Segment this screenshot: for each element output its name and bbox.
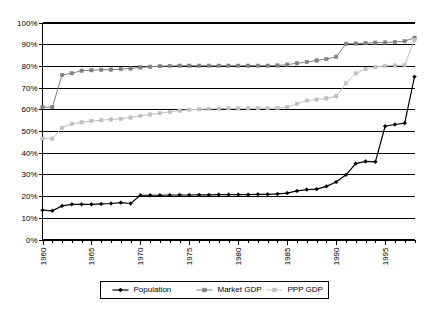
data-point: [373, 160, 377, 164]
data-point: [60, 73, 63, 76]
data-point: [256, 192, 260, 196]
data-point: [354, 42, 357, 45]
y-axis-tick-label: 50%: [21, 127, 37, 136]
data-point: [139, 66, 142, 69]
legend-marker-icon: [273, 288, 277, 292]
data-point: [90, 202, 94, 206]
data-point: [276, 64, 279, 67]
y-axis-tick-label: 30%: [21, 170, 37, 179]
data-point: [246, 107, 249, 110]
y-axis-tick-label: 70%: [21, 84, 37, 93]
data-point: [70, 122, 73, 125]
data-point: [383, 124, 387, 128]
data-point: [286, 105, 289, 108]
x-axis-tick-label: 1995: [381, 247, 390, 265]
data-point: [305, 99, 308, 102]
y-axis-tick-label: 0%: [26, 236, 38, 245]
data-point: [158, 64, 161, 67]
data-series: [41, 36, 417, 213]
data-point: [41, 208, 45, 212]
data-point: [70, 202, 74, 206]
data-point: [403, 121, 407, 125]
data-point: [315, 187, 319, 191]
data-point: [129, 67, 132, 70]
data-point: [266, 64, 269, 67]
data-point: [383, 41, 386, 44]
data-point: [295, 102, 298, 105]
x-axis-tick-label: 1985: [283, 247, 292, 265]
gridlines: [43, 24, 415, 241]
y-axis-tick-label: 60%: [21, 105, 37, 114]
data-point: [276, 192, 280, 196]
data-point: [100, 118, 103, 121]
x-axis-tick-label: 1980: [234, 247, 243, 265]
data-point: [325, 97, 328, 100]
y-axis-tick-labels: 0%10%20%30%40%50%60%70%80%90%100%: [17, 19, 37, 245]
data-point: [295, 189, 299, 193]
data-point: [119, 67, 122, 70]
data-point: [207, 107, 210, 110]
data-point: [109, 118, 112, 121]
data-point: [80, 121, 83, 124]
data-point: [60, 126, 63, 129]
data-point: [70, 72, 73, 75]
data-point: [295, 62, 298, 65]
data-point: [334, 55, 337, 58]
chart-container: 0%10%20%30%40%50%60%70%80%90%100% 196019…: [0, 0, 427, 311]
data-point: [374, 65, 377, 68]
data-point: [237, 107, 240, 110]
series-market-gdp: [41, 36, 416, 109]
x-axis-tick-labels: 19601965197019751980198519901995: [39, 247, 391, 265]
data-point: [393, 40, 396, 43]
series-ppp-gdp: [41, 38, 416, 140]
data-point: [41, 105, 44, 108]
data-point: [354, 72, 357, 75]
data-point: [41, 137, 44, 140]
data-point: [178, 109, 181, 112]
data-point: [383, 64, 386, 67]
y-axis-tick-label: 20%: [21, 192, 37, 201]
data-point: [80, 69, 83, 72]
data-point: [413, 75, 417, 79]
data-point: [325, 57, 328, 60]
data-point: [51, 105, 54, 108]
data-point: [217, 193, 221, 197]
data-point: [246, 64, 249, 67]
data-point: [217, 107, 220, 110]
y-axis-tick-label: 90%: [21, 40, 37, 49]
data-point: [178, 64, 181, 67]
data-point: [413, 38, 416, 41]
data-point: [188, 108, 191, 111]
data-point: [266, 192, 270, 196]
data-point: [256, 64, 259, 67]
x-axis-tick-label: 1965: [87, 247, 96, 265]
data-point: [168, 110, 171, 113]
data-point: [256, 107, 259, 110]
legend-label: PPP GDP: [288, 285, 323, 294]
x-axis-tick-label: 1960: [39, 247, 48, 265]
data-point: [236, 193, 240, 197]
legend-label: Population: [134, 285, 172, 294]
data-point: [129, 116, 132, 119]
data-point: [364, 41, 367, 44]
data-point: [286, 63, 289, 66]
data-point: [344, 42, 347, 45]
data-point: [227, 107, 230, 110]
series-line: [43, 77, 415, 211]
data-point: [100, 68, 103, 71]
data-point: [285, 191, 289, 195]
y-axis-tick-label: 80%: [21, 62, 37, 71]
legend-marker-icon: [203, 288, 207, 292]
data-point: [393, 64, 396, 67]
data-point: [403, 63, 406, 66]
data-point: [393, 123, 397, 127]
data-point: [90, 119, 93, 122]
data-point: [334, 95, 337, 98]
series-population: [41, 75, 417, 213]
data-point: [266, 107, 269, 110]
data-point: [227, 64, 230, 67]
data-point: [158, 112, 161, 115]
data-point: [109, 202, 113, 206]
line-chart: 0%10%20%30%40%50%60%70%80%90%100% 196019…: [0, 0, 427, 311]
data-point: [403, 39, 406, 42]
